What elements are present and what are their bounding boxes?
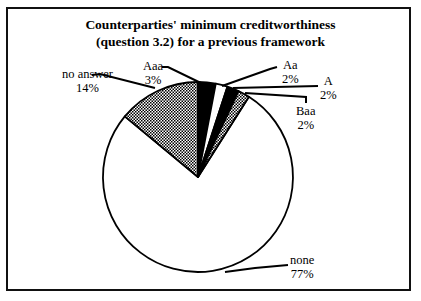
label-no-answer-name: no answer <box>62 67 113 81</box>
label-none: none 77% <box>290 253 314 281</box>
leader-a <box>233 86 318 88</box>
label-aa: Aa 2% <box>282 58 299 86</box>
leader-none <box>225 265 288 272</box>
label-no-answer: no answer 14% <box>62 67 113 95</box>
label-baa: Baa 2% <box>296 104 315 132</box>
label-none-value: 77% <box>290 267 314 281</box>
pie-chart <box>0 0 421 301</box>
leader-aa <box>222 67 277 86</box>
label-aa-value: 2% <box>282 72 299 86</box>
label-no-answer-value: 14% <box>62 81 113 95</box>
label-aaa-name: Aaa <box>143 59 163 73</box>
label-aaa-value: 3% <box>143 73 163 87</box>
label-none-name: none <box>290 253 314 267</box>
label-baa-name: Baa <box>296 104 315 118</box>
label-baa-value: 2% <box>296 118 315 132</box>
label-a-value: 2% <box>320 88 337 102</box>
label-aa-name: Aa <box>282 58 299 72</box>
label-aaa: Aaa 3% <box>143 59 163 87</box>
label-a-name: A <box>320 74 337 88</box>
label-a: A 2% <box>320 74 337 102</box>
